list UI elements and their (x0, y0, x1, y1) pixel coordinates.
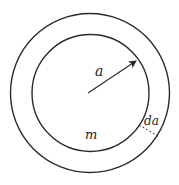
radius-label: a (95, 63, 103, 79)
concentric-circles-diagram: a m da (0, 0, 179, 185)
mass-label: m (85, 127, 97, 142)
outer-circle (11, 14, 170, 173)
thickness-label: da (144, 114, 159, 128)
